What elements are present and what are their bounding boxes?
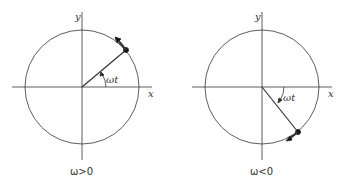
left-arc-arrow-icon bbox=[100, 72, 104, 76]
right-angle-label: ωt bbox=[283, 93, 295, 103]
left-x-label: x bbox=[148, 89, 154, 99]
left-radius-vector bbox=[82, 50, 126, 87]
right-arc-arrow-icon bbox=[278, 98, 282, 103]
left-caption: ω>0 bbox=[70, 167, 93, 177]
right-x-label: x bbox=[328, 89, 334, 99]
right-caption: ω<0 bbox=[250, 167, 273, 177]
left-phasor-diagram bbox=[12, 12, 152, 160]
left-angle-label: ωt bbox=[106, 75, 118, 85]
right-phasor-diagram bbox=[192, 12, 332, 160]
left-y-label: y bbox=[75, 12, 81, 22]
right-y-label: y bbox=[255, 12, 261, 22]
